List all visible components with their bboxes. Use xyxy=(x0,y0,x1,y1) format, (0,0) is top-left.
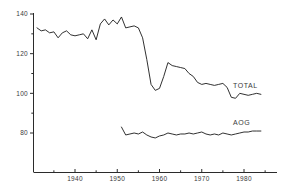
series-label-total: TOTAL xyxy=(233,82,258,89)
series-label-aog: AOG xyxy=(233,119,250,126)
x-axis-ticks xyxy=(54,169,265,173)
plot-area xyxy=(37,17,261,138)
y-tick-label: 100 xyxy=(16,90,28,97)
y-tick-label: 140 xyxy=(16,10,28,17)
x-tick-label: 1980 xyxy=(236,175,252,182)
y-axis-tick-labels: 80100120140 xyxy=(16,10,28,136)
series-line-total xyxy=(37,17,261,98)
x-tick-label: 1950 xyxy=(109,175,125,182)
x-axis: 19401950196019701980 xyxy=(34,169,278,182)
x-tick-label: 1940 xyxy=(67,175,83,182)
chart-canvas: 80100120140 19401950196019701980 TOTAL A… xyxy=(0,0,284,193)
y-tick-label: 120 xyxy=(16,50,28,57)
series-line-aog xyxy=(121,127,260,138)
y-axis: 80100120140 xyxy=(16,10,33,172)
y-axis-ticks xyxy=(30,14,34,133)
y-tick-label: 80 xyxy=(20,129,28,136)
x-tick-label: 1970 xyxy=(194,175,210,182)
x-axis-tick-labels: 19401950196019701980 xyxy=(67,175,252,182)
line-chart: 80100120140 19401950196019701980 TOTAL A… xyxy=(0,0,284,193)
series-labels: TOTAL AOG xyxy=(233,82,258,126)
x-tick-label: 1960 xyxy=(152,175,168,182)
